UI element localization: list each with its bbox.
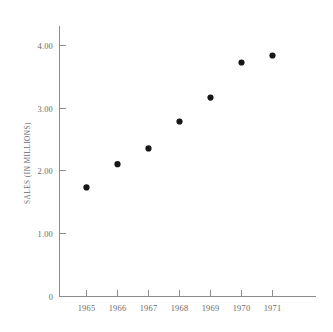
- data-point-1971[interactable]: [269, 52, 275, 58]
- y-tick-label-2: 2.00: [38, 167, 53, 176]
- x-tick-label-1966: 1966: [109, 304, 127, 313]
- data-point-1968[interactable]: [176, 118, 182, 124]
- data-point-1970[interactable]: [238, 59, 244, 65]
- data-point-1966[interactable]: [114, 161, 120, 167]
- x-tick-label-1971: 1971: [264, 304, 282, 313]
- y-tick-label-3: 3.00: [38, 105, 53, 114]
- scatter-plot-svg: 4.00 3.00 2.00 1.00 0 1965 1966 1967 196…: [0, 0, 333, 332]
- y-axis-title: SALES (IN MILLIONS): [24, 122, 32, 204]
- x-tick-label-1968: 1968: [171, 304, 189, 313]
- x-tick-labels: 1965 1966 1967 1968 1969 1970 1971: [78, 304, 282, 313]
- data-point-1969[interactable]: [207, 95, 213, 101]
- chart-figure: 4.00 3.00 2.00 1.00 0 1965 1966 1967 196…: [0, 0, 333, 332]
- y-tick-marks: [60, 46, 67, 234]
- y-tick-label-1: 1.00: [38, 230, 53, 239]
- x-tick-label-1967: 1967: [140, 304, 158, 313]
- x-tick-label-1969: 1969: [202, 304, 220, 313]
- y-tick-labels: 4.00 3.00 2.00 1.00 0: [38, 42, 53, 302]
- x-tick-marks: [87, 290, 273, 297]
- data-point-1965[interactable]: [83, 184, 89, 190]
- x-tick-label-1965: 1965: [78, 304, 96, 313]
- y-tick-label-4: 4.00: [38, 42, 53, 51]
- x-tick-label-1970: 1970: [233, 304, 251, 313]
- data-points-group: [83, 52, 275, 190]
- axes-group: [60, 26, 317, 297]
- y-tick-label-0: 0: [49, 293, 53, 302]
- data-point-1967[interactable]: [145, 145, 151, 151]
